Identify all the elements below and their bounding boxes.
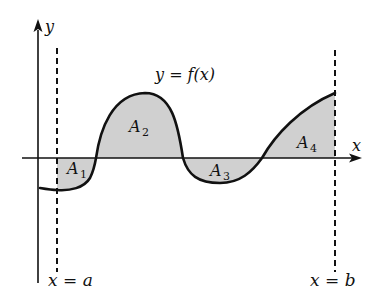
svg-text:A: A bbox=[65, 159, 79, 178]
svg-text:1: 1 bbox=[80, 168, 87, 181]
svg-text:A: A bbox=[127, 117, 141, 136]
y-axis: y bbox=[34, 17, 56, 283]
svg-text:A: A bbox=[208, 161, 222, 180]
right-bound-label: x = b bbox=[310, 270, 356, 290]
function-label: y = f(x) bbox=[154, 65, 215, 84]
y-axis-label: y bbox=[44, 17, 55, 36]
area-under-curve-diagram: x y y = f(x) A 1 A 2 A 3 A 4 x = a x = b bbox=[0, 0, 384, 305]
left-bound-label: x = a bbox=[48, 270, 93, 290]
x-axis-label: x bbox=[352, 136, 361, 155]
svg-text:2: 2 bbox=[142, 126, 149, 139]
svg-text:A: A bbox=[295, 133, 309, 152]
svg-text:4: 4 bbox=[310, 142, 317, 155]
svg-text:3: 3 bbox=[223, 170, 230, 183]
